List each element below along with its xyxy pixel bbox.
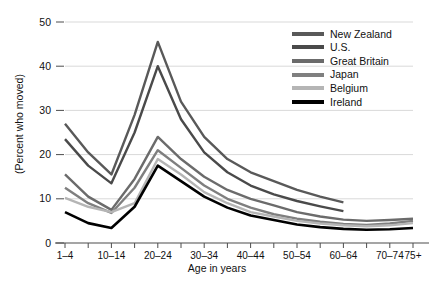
- legend-item-label: New Zealand: [330, 29, 392, 40]
- x-axis-tick-label: 40–44: [228, 251, 274, 261]
- legend-color-swatch: [292, 73, 324, 77]
- legend-item[interactable]: Great Britain: [292, 54, 392, 68]
- legend-color-swatch: [292, 59, 324, 63]
- legend-item[interactable]: New Zealand: [292, 27, 392, 41]
- x-axis-tick-label: 60–64: [320, 251, 366, 261]
- legend-item-label: Japan: [330, 69, 359, 80]
- x-axis-tick-label: 75+: [390, 251, 434, 261]
- x-axis-tick-label: 10–14: [88, 251, 134, 261]
- legend-item-label: Belgium: [330, 83, 368, 94]
- legend-item-label: Great Britain: [330, 56, 389, 67]
- x-axis-tick-label: 1–4: [42, 251, 88, 261]
- x-axis-tick-label: 30–34: [181, 251, 227, 261]
- legend-item[interactable]: U.S.: [292, 41, 392, 55]
- legend-item[interactable]: Ireland: [292, 95, 392, 109]
- x-axis-tick-marks: [65, 243, 413, 248]
- legend-color-swatch: [292, 45, 324, 49]
- x-axis-tick-label: 20–24: [135, 251, 181, 261]
- legend-item-label: U.S.: [330, 42, 350, 53]
- x-axis-tick-label: 50–54: [274, 251, 320, 261]
- legend: New ZealandU.S.Great BritainJapanBelgium…: [292, 27, 392, 109]
- line-chart: (Percent who moved) 01020304050 1–410–14…: [0, 0, 434, 289]
- legend-color-swatch: [292, 32, 324, 36]
- legend-item[interactable]: Belgium: [292, 81, 392, 95]
- legend-item-label: Ireland: [330, 97, 362, 108]
- legend-color-swatch: [292, 100, 324, 104]
- legend-item[interactable]: Japan: [292, 68, 392, 82]
- x-axis-title: Age in years: [0, 262, 434, 274]
- legend-color-swatch: [292, 86, 324, 90]
